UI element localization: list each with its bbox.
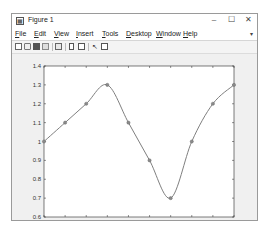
save-icon[interactable] <box>33 43 40 50</box>
toolbar-separator <box>88 43 89 51</box>
data-point-marker <box>169 197 172 200</box>
data-point-marker <box>127 121 130 124</box>
insert-colorbar-icon[interactable] <box>78 43 85 50</box>
menu-desktop[interactable]: Desktop <box>126 30 152 37</box>
minimize-button[interactable]: – <box>208 15 220 24</box>
y-tick-label: 1.3 <box>33 82 42 88</box>
y-tick-label: 1.1 <box>33 120 42 126</box>
menu-file[interactable]: File <box>15 30 26 37</box>
menu-edit[interactable]: Edit <box>34 30 46 37</box>
window-title: Figure 1 <box>28 16 54 23</box>
menu-overflow-icon[interactable]: ▾ <box>250 30 253 37</box>
y-tick-label: 0.7 <box>33 195 42 201</box>
open-file-icon[interactable] <box>24 43 31 50</box>
figure-canvas: 0.60.70.80.911.11.21.31.4 0.10.20.30.40.… <box>12 54 257 220</box>
menu-insert[interactable]: Insert <box>76 30 94 37</box>
axes-plot[interactable]: 0.60.70.80.911.11.21.31.4 0.10.20.30.40.… <box>12 54 257 220</box>
y-tick-label: 1.4 <box>33 63 42 69</box>
data-point-marker <box>211 102 214 105</box>
print-icon[interactable] <box>42 43 49 50</box>
data-point-marker <box>232 83 235 86</box>
print-preview-icon[interactable] <box>55 43 62 50</box>
y-tick-label: 1.2 <box>33 101 42 107</box>
toolbar-separator <box>52 43 53 51</box>
property-inspector-icon[interactable] <box>101 43 108 50</box>
data-point-marker <box>85 102 88 105</box>
data-point-marker <box>190 140 193 143</box>
maximize-button[interactable]: ☐ <box>225 15 237 24</box>
data-point-marker <box>148 159 151 162</box>
menu-bar: File Edit View Insert Tools Desktop Wind… <box>12 28 257 41</box>
link-plot-icon[interactable] <box>69 43 74 50</box>
menu-tools[interactable]: Tools <box>102 30 118 37</box>
data-point-marker <box>42 140 45 143</box>
data-point-marker <box>106 83 109 86</box>
y-tick-label: 0.8 <box>33 176 42 182</box>
menu-window[interactable]: Window <box>156 30 181 37</box>
figure-window: ▦ Figure 1 – ☐ ✕ File Edit View Insert T… <box>11 13 258 221</box>
close-button[interactable]: ✕ <box>242 15 254 24</box>
toolbar-separator <box>65 43 66 51</box>
data-point-marker <box>64 121 67 124</box>
y-tick-label: 1 <box>38 139 42 145</box>
menu-view[interactable]: View <box>54 30 69 37</box>
new-figure-icon[interactable] <box>15 43 22 50</box>
y-tick-label: 0.9 <box>33 157 42 163</box>
title-bar[interactable]: ▦ Figure 1 – ☐ ✕ <box>12 14 257 28</box>
edit-plot-pointer-icon[interactable]: ↖ <box>92 43 99 50</box>
menu-help[interactable]: Help <box>183 30 197 37</box>
matlab-figure-icon: ▦ <box>16 17 24 25</box>
figure-toolbar: ↖ <box>12 41 257 54</box>
